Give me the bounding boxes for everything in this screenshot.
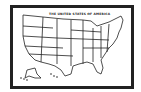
us-map xyxy=(13,8,131,86)
contiguous-us-outline xyxy=(23,15,123,76)
map-frame: THE UNITED STATES OF AMERICA xyxy=(10,5,134,89)
alaska-outline xyxy=(25,68,41,78)
